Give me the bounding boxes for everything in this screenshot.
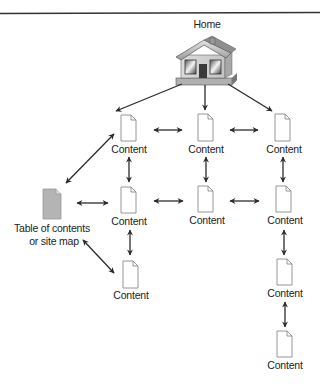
content-label-c8: Content	[267, 287, 302, 299]
top-rule	[0, 13, 320, 14]
document-icon	[123, 261, 138, 288]
site-structure-diagram: Home Table of contents or site map Conte…	[0, 0, 320, 387]
arrow-toc-c7	[83, 240, 114, 273]
content-label-c6: Content	[267, 214, 302, 226]
diagram-canvas	[0, 0, 320, 387]
content-label-c2: Content	[188, 143, 223, 155]
home-label: Home	[193, 18, 220, 30]
house-icon	[176, 36, 237, 85]
document-icon	[277, 259, 292, 285]
content-label-c3: Content	[266, 143, 301, 155]
document-icon	[198, 114, 213, 141]
arrow-home-to-c3	[228, 84, 272, 111]
document-icon	[277, 331, 292, 357]
toc-label-line2: or site map	[29, 235, 79, 247]
two-way-arrows	[66, 130, 285, 327]
toc-label-line1: Table of contents	[14, 222, 90, 234]
arrow-home-to-c1	[116, 84, 182, 111]
content-label-c7: Content	[113, 289, 148, 301]
document-icon	[276, 186, 291, 212]
arrow-toc-c1	[66, 134, 114, 183]
document-gray-icon	[43, 189, 61, 219]
content-label-c9: Content	[267, 359, 302, 371]
content-label-c5: Content	[189, 214, 224, 226]
content-label-c4: Content	[111, 215, 146, 227]
document-icon	[121, 187, 136, 213]
document-icon	[198, 186, 213, 212]
document-icon	[275, 114, 290, 141]
home-arrows	[116, 84, 272, 111]
content-label-c1: Content	[111, 143, 146, 155]
document-icon	[121, 115, 136, 141]
